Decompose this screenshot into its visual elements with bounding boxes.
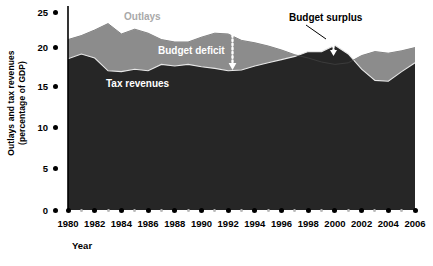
x-tick-label-2000: 2000 xyxy=(320,218,350,229)
y-tick-label-0: 0 xyxy=(26,205,48,216)
y-tick-label-10: 10 xyxy=(26,122,48,133)
x-tick-label-1992: 1992 xyxy=(213,218,243,229)
x-tick-label-1994: 1994 xyxy=(240,218,270,229)
budget-surplus-leader-line xyxy=(306,25,326,39)
x-tick-dot-1984 xyxy=(119,208,124,213)
x-tick-label-2004: 2004 xyxy=(373,218,403,229)
x-tick-label-2006: 2006 xyxy=(400,218,430,229)
x-tick-dot-1995 xyxy=(267,209,270,212)
y-tick-dot-5 xyxy=(53,166,58,171)
x-tick-label-1996: 1996 xyxy=(267,218,297,229)
y-tick-dot-10 xyxy=(53,125,58,130)
x-tick-label-1990: 1990 xyxy=(186,218,216,229)
x-tick-dot-1986 xyxy=(146,208,151,213)
x-tick-dot-1981 xyxy=(80,209,83,212)
x-tick-dot-1983 xyxy=(107,209,110,212)
x-tick-label-1984: 1984 xyxy=(106,218,136,229)
chart-areas xyxy=(68,24,415,210)
x-tick-dot-2004 xyxy=(386,208,391,213)
y-tick-label-5: 5 xyxy=(26,163,48,174)
x-tick-label-1988: 1988 xyxy=(160,218,190,229)
x-tick-label-1982: 1982 xyxy=(80,218,110,229)
x-tick-dot-1989 xyxy=(187,209,190,212)
x-tick-dot-2006 xyxy=(413,208,418,213)
y-tick-dot-15 xyxy=(53,84,58,89)
x-tick-dot-1993 xyxy=(240,209,243,212)
y-tick-dot-25 xyxy=(53,10,58,15)
y-tick-dot-0 xyxy=(53,208,58,213)
y-tick-label-20: 20 xyxy=(26,42,48,53)
x-tick-dot-1980 xyxy=(66,208,71,213)
x-axis-title: Year xyxy=(72,240,92,251)
x-tick-label-2002: 2002 xyxy=(347,218,377,229)
y-tick-dot-20 xyxy=(53,45,58,50)
chart-figure: Outlays and tax revenues (percentage of … xyxy=(0,0,433,266)
x-tick-label-1980: 1980 xyxy=(53,218,83,229)
x-tick-dot-1998 xyxy=(306,208,311,213)
x-tick-dot-1990 xyxy=(199,208,204,213)
y-tick-label-15: 15 xyxy=(26,81,48,92)
x-tick-dot-1992 xyxy=(226,208,231,213)
x-tick-dot-1987 xyxy=(160,209,163,212)
x-tick-label-1998: 1998 xyxy=(293,218,323,229)
x-tick-dot-1996 xyxy=(279,208,284,213)
y-tick-label-25: 25 xyxy=(26,7,48,18)
x-tick-dot-2001 xyxy=(347,209,350,212)
x-tick-label-1986: 1986 xyxy=(133,218,163,229)
